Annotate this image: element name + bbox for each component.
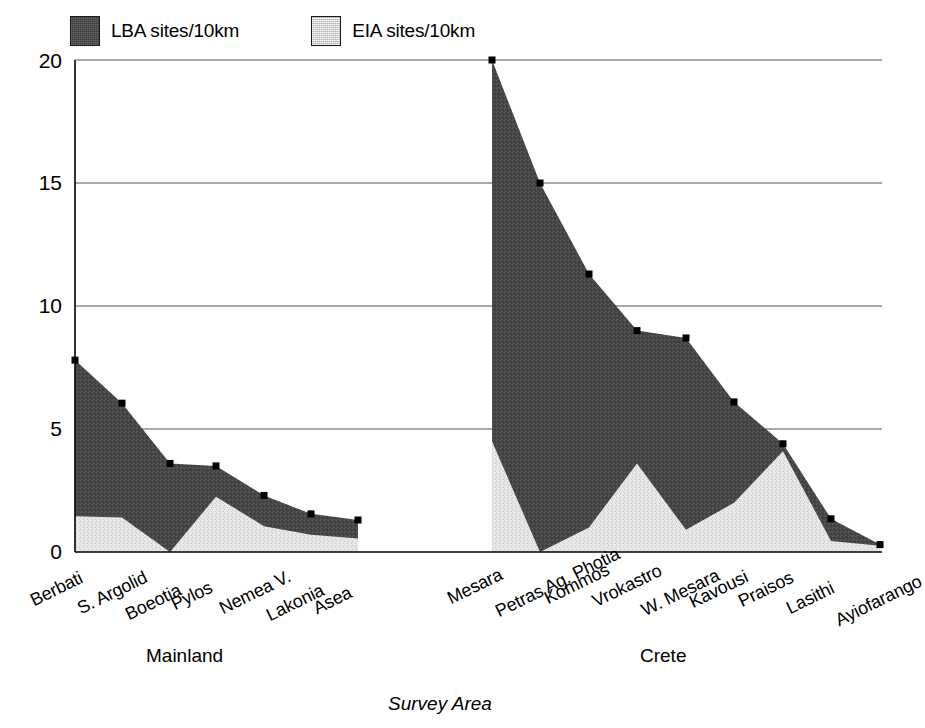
data-point-marker	[537, 180, 544, 187]
data-point-marker	[828, 515, 835, 522]
data-point-marker	[355, 517, 362, 524]
data-point-marker	[731, 398, 738, 405]
legend-label-eia: EIA sites/10km	[352, 20, 475, 42]
data-point-marker	[489, 57, 496, 64]
data-point-marker	[308, 510, 315, 517]
legend-swatch-eia-icon	[311, 16, 341, 46]
legend-item-eia: EIA sites/10km	[311, 16, 475, 46]
data-point-marker	[877, 541, 884, 548]
group-label-crete: Crete	[640, 645, 686, 667]
gridlines	[75, 60, 882, 429]
chart-legend: LBA sites/10km EIA sites/10km	[70, 16, 475, 46]
x-axis-title: Survey Area	[388, 693, 492, 715]
data-point-marker	[634, 327, 641, 334]
data-point-marker	[780, 440, 787, 447]
group-label-mainland: Mainland	[146, 645, 223, 667]
data-point-marker	[683, 334, 690, 341]
legend-swatch-lba-icon	[70, 16, 100, 46]
data-point-marker	[119, 400, 126, 407]
data-point-marker	[167, 460, 174, 467]
data-point-marker	[261, 492, 268, 499]
data-point-marker	[586, 271, 593, 278]
data-point-marker	[213, 462, 220, 469]
legend-item-lba: LBA sites/10km	[70, 16, 239, 46]
legend-label-lba: LBA sites/10km	[111, 20, 239, 42]
